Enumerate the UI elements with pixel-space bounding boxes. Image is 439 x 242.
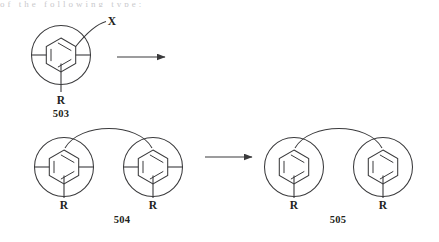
substituent-label-r-505-right: R [379,199,388,211]
substituent-label-x-503: X [108,15,117,27]
structure-number-504: 504 [114,214,131,225]
bond-to-x-503 [76,22,106,47]
substituent-label-r-504-right: R [149,199,158,211]
ring-linker-arc-504 [65,129,152,149]
structure-504: R R 504 [35,129,183,226]
structure-503: X R 503 [32,15,117,119]
structure-505: R R 505 [265,129,413,226]
structure-number-505: 505 [330,214,346,225]
substituent-label-r-503: R [57,94,66,106]
structure-number-503: 503 [53,108,69,119]
substituent-label-r-505-left: R [290,199,299,211]
reaction-scheme: X R 503 R R 504 [0,0,439,242]
ring-linker-arc-505 [295,129,382,149]
substituent-label-r-504-left: R [60,199,69,211]
